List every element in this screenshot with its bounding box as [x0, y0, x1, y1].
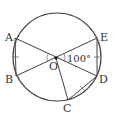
label-c: C [63, 102, 71, 115]
geometry-diagram: A B C D E O 100° [0, 0, 115, 116]
angle-label: 100° [67, 53, 91, 64]
label-e: E [100, 31, 108, 44]
label-b: B [5, 73, 13, 86]
label-a: A [4, 31, 14, 44]
label-o: O [49, 60, 58, 73]
label-d: D [99, 73, 108, 86]
